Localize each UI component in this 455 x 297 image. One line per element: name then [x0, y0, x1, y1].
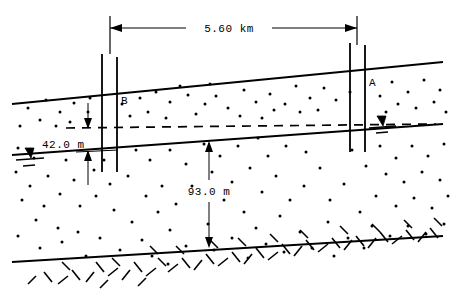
bedrock-texture [28, 218, 442, 288]
aquifer-thickness-label: 93.0 m [188, 186, 231, 198]
horizontal-dimension-label: 5.60 km [204, 23, 254, 35]
diagram-canvas: B A 5.60 km 42.0 m [0, 0, 455, 297]
ground-surface-line [12, 62, 443, 104]
aquifer-texture [15, 137, 450, 266]
head-drop-dimension: 42.0 m [42, 103, 118, 185]
well-b-label: B [121, 95, 128, 107]
horizontal-dimension: 5.60 km [110, 23, 357, 35]
well-a[interactable]: A [350, 16, 376, 152]
aquifer-diagram: B A 5.60 km 42.0 m [0, 0, 455, 297]
head-drop-label: 42.0 m [42, 139, 85, 151]
water-table-icon-left [16, 148, 44, 166]
dim-arrow-right [345, 24, 357, 32]
well-a-label: A [369, 77, 376, 89]
thickness-arrow-up [205, 141, 213, 152]
aquifer-thickness-dimension: 93.0 m [188, 141, 231, 248]
dim-arrow-left [110, 24, 122, 32]
